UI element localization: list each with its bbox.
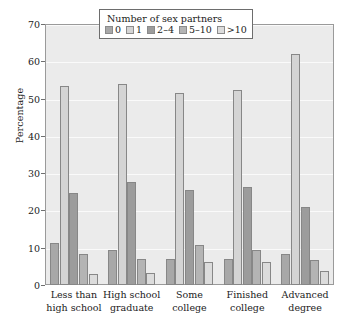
y-tick-label: 60: [14, 56, 40, 67]
gridline: [46, 174, 333, 175]
legend-item: 1: [126, 25, 142, 35]
legend-swatch-icon: [105, 26, 113, 34]
y-tick-label: 40: [14, 130, 40, 141]
y-tick-mark: [41, 210, 45, 211]
y-tick-label: 30: [14, 168, 40, 179]
legend: Number of sex partners 012–45–10>10: [99, 9, 253, 39]
legend-label: 0: [115, 25, 121, 35]
y-tick-mark: [41, 99, 45, 100]
legend-swatch-icon: [217, 26, 225, 34]
x-tick-label: High schoolgraduate: [103, 289, 161, 314]
y-tick-label: 70: [14, 19, 40, 30]
gridline: [46, 211, 333, 212]
x-axis-labels: Less thanhigh schoolHigh schoolgraduateS…: [45, 287, 334, 323]
gridline: [46, 62, 333, 63]
legend-item: 0: [105, 25, 121, 35]
legend-title: Number of sex partners: [105, 13, 247, 24]
legend-swatch-icon: [126, 26, 134, 34]
gridline: [46, 249, 333, 250]
legend-items: 012–45–10>10: [105, 25, 247, 35]
gridline: [46, 100, 333, 101]
y-tick-label: 50: [14, 93, 40, 104]
x-tick-label: Less thanhigh school: [45, 289, 103, 314]
y-tick-mark: [41, 61, 45, 62]
x-tick-label: Somecollege: [161, 289, 219, 314]
y-tick-mark: [41, 173, 45, 174]
legend-swatch-icon: [147, 26, 155, 34]
legend-label: 5–10: [189, 25, 212, 35]
y-tick-label: 0: [14, 280, 40, 291]
x-tick-label: Finishedcollege: [218, 289, 276, 314]
legend-label: 2–4: [157, 25, 174, 35]
bar-chart: Percentage 010203040506070 Less thanhigh…: [0, 0, 341, 325]
y-tick-mark: [41, 285, 45, 286]
y-tick-label: 10: [14, 242, 40, 253]
y-tick-mark: [41, 248, 45, 249]
plot-panel: [45, 24, 334, 285]
y-axis-title: Percentage: [14, 61, 25, 171]
y-tick-mark: [41, 24, 45, 25]
y-tick-mark: [41, 136, 45, 137]
legend-label: >10: [227, 25, 247, 35]
legend-swatch-icon: [179, 26, 187, 34]
legend-item: >10: [217, 25, 247, 35]
legend-item: 2–4: [147, 25, 174, 35]
x-tick-label: Advanceddegree: [276, 289, 334, 314]
gridline: [46, 137, 333, 138]
y-tick-label: 20: [14, 205, 40, 216]
legend-label: 1: [136, 25, 142, 35]
legend-item: 5–10: [179, 25, 212, 35]
